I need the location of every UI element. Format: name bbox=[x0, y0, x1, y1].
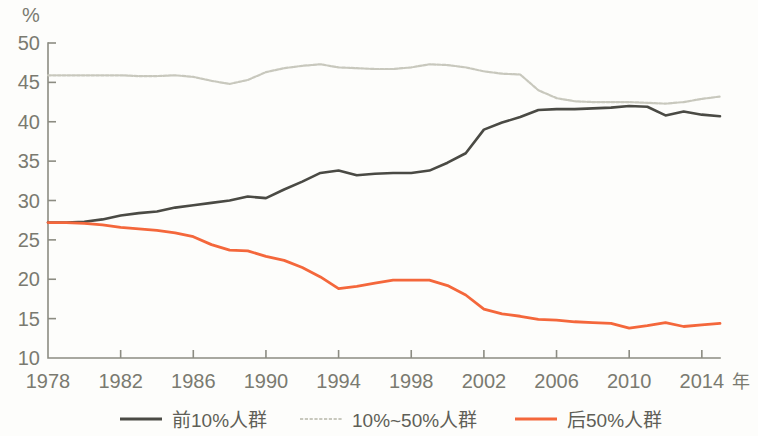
y-tick-label: 10 bbox=[18, 347, 40, 369]
x-tick-label: 2006 bbox=[534, 370, 579, 392]
x-axis-name-label: 年 bbox=[732, 372, 750, 392]
x-axis-ticks: 1978198219861990199419982002200620102014 bbox=[26, 350, 724, 392]
x-tick-label: 1998 bbox=[389, 370, 434, 392]
x-tick-label: 1982 bbox=[98, 370, 143, 392]
y-tick-label: 20 bbox=[18, 268, 40, 290]
legend-label-3: 后50%人群 bbox=[567, 410, 662, 431]
y-tick-label: 25 bbox=[18, 229, 40, 251]
legend-label-2: 10%~50%人群 bbox=[352, 410, 477, 431]
y-tick-label: 45 bbox=[18, 71, 40, 93]
y-tick-label: 30 bbox=[18, 190, 40, 212]
x-tick-label: 2014 bbox=[680, 370, 725, 392]
y-tick-label: 15 bbox=[18, 308, 40, 330]
line-chart: %101520253035404550197819821986199019941… bbox=[0, 0, 758, 436]
x-tick-label: 1986 bbox=[171, 370, 216, 392]
y-tick-label: 35 bbox=[18, 150, 40, 172]
x-tick-label: 1978 bbox=[26, 370, 71, 392]
series-line-3 bbox=[48, 223, 720, 329]
legend-label-1: 前10%人群 bbox=[172, 410, 267, 431]
y-tick-label: 40 bbox=[18, 111, 40, 133]
chart-legend: 前10%人群10%~50%人群后50%人群 bbox=[120, 410, 662, 431]
y-tick-label: 50 bbox=[18, 32, 40, 54]
chart-container: %101520253035404550197819821986199019941… bbox=[0, 0, 758, 436]
y-axis-unit-label: % bbox=[22, 4, 40, 26]
x-tick-label: 2010 bbox=[607, 370, 652, 392]
series-line-1 bbox=[48, 106, 720, 223]
x-tick-label: 1994 bbox=[316, 370, 361, 392]
x-tick-label: 1990 bbox=[244, 370, 289, 392]
x-tick-label: 2002 bbox=[462, 370, 507, 392]
y-axis-ticks: 101520253035404550 bbox=[18, 32, 56, 369]
series-line-2 bbox=[48, 64, 720, 103]
chart-axes bbox=[48, 43, 720, 358]
series-group bbox=[48, 64, 720, 328]
